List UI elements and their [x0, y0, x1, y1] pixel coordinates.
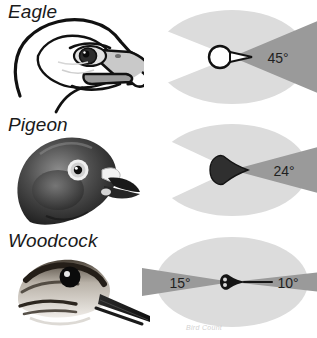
angle-label-pigeon: 24°: [273, 163, 294, 179]
species-row-woodcock: Woodcock: [0, 230, 317, 338]
angle-label-eagle: 45°: [267, 50, 288, 66]
eagle-head-icon: [15, 20, 150, 112]
pigeon-head-illustration: [0, 112, 155, 230]
angle-label-woodcock-rear: 15°: [169, 275, 190, 291]
head-top-view: [209, 46, 231, 68]
eagle-head-illustration: [0, 0, 155, 115]
pigeon-fov-diagram: 24°: [148, 112, 317, 230]
pigeon-head-icon: [17, 138, 140, 225]
woodcock-head-illustration: [0, 230, 155, 338]
pigeon-fov-diagram-icon: 24°: [142, 124, 317, 216]
eagle-fov-diagram-icon: 45°: [144, 10, 317, 104]
figure-credit: Bird Count: [186, 324, 222, 331]
woodcock-head-icon: [18, 260, 150, 324]
woodcock-fov-diagram-icon: 15° 10°: [142, 237, 317, 327]
angle-label-woodcock-front: 10°: [277, 275, 298, 291]
bird-visual-field-figure: Eagle: [0, 0, 317, 338]
eagle-fov-diagram: 45°: [148, 0, 317, 115]
species-row-pigeon: Pigeon: [0, 112, 317, 230]
species-row-eagle: Eagle: [0, 0, 317, 115]
woodcock-fov-diagram: 15° 10°: [148, 230, 317, 338]
